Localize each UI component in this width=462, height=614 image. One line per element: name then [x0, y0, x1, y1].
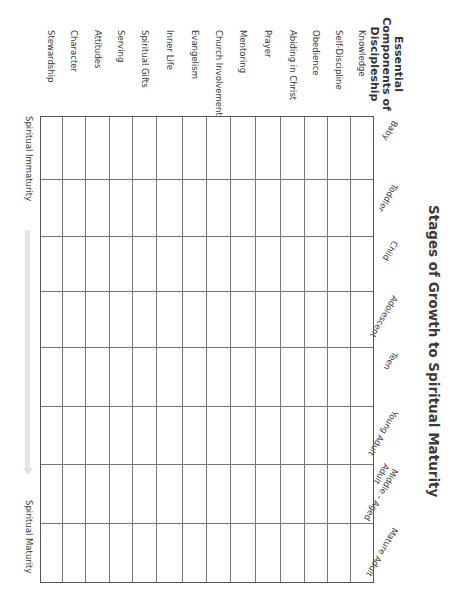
grid-column-divider: [41, 179, 373, 180]
component-label: Spiritual Gifts: [140, 30, 150, 88]
page-title: Stages of Growth to Spiritual Maturity: [426, 205, 442, 445]
grid-row-divider: [85, 117, 86, 582]
axis-end-label: Spiritual Maturity: [24, 500, 34, 573]
component-label: Serving: [117, 30, 127, 62]
grid-row-divider: [280, 117, 281, 582]
component-label: Self-Discipline: [335, 30, 345, 90]
arrow-head-icon: [23, 468, 33, 475]
component-label: Character: [70, 30, 80, 72]
stage-label: Toddler: [376, 182, 400, 214]
grid-row-divider: [327, 117, 328, 582]
component-label: Attitudes: [93, 30, 103, 68]
grid-row-divider: [132, 117, 133, 582]
grid-row-divider: [62, 117, 63, 582]
heading-line: Essential: [392, 14, 404, 114]
grid-column-divider: [41, 523, 373, 524]
discipleship-worksheet-page: Stages of Growth to Spiritual Maturity E…: [0, 0, 462, 614]
component-label: Prayer: [264, 30, 274, 57]
assessment-grid: [40, 116, 374, 583]
component-label: Abiding in Christ: [288, 30, 298, 100]
component-label: Knowledge: [358, 30, 368, 77]
grid-row-divider: [255, 117, 256, 582]
stage-label: Teen: [382, 350, 400, 372]
component-label: Mentoring: [239, 30, 249, 73]
progress-arrow-icon: [25, 230, 30, 470]
components-heading: Essential Components of Discipleship: [368, 14, 404, 114]
grid-column-divider: [41, 236, 373, 237]
stage-label: Baby: [381, 119, 400, 143]
component-label: Inner Life: [165, 30, 175, 70]
grid-row-divider: [350, 117, 351, 582]
stage-label: Child: [381, 239, 400, 263]
component-label: Evangelism: [190, 30, 200, 79]
grid-column-divider: [41, 291, 373, 292]
component-label: Church Involvement: [214, 30, 224, 116]
grid-column-divider: [41, 347, 373, 348]
component-label: Obedience: [312, 30, 322, 76]
heading-line: Components of: [380, 14, 392, 114]
grid-row-divider: [182, 117, 183, 582]
grid-row-divider: [109, 117, 110, 582]
heading-line: Discipleship: [368, 14, 380, 114]
grid-row-divider: [206, 117, 207, 582]
grid-row-divider: [156, 117, 157, 582]
axis-start-label: Spiritual Immaturity: [24, 116, 34, 201]
grid-row-divider: [230, 117, 231, 582]
grid-column-divider: [41, 406, 373, 407]
grid-row-divider: [304, 117, 305, 582]
component-label: Stewardship: [47, 30, 57, 82]
grid-column-divider: [41, 464, 373, 465]
